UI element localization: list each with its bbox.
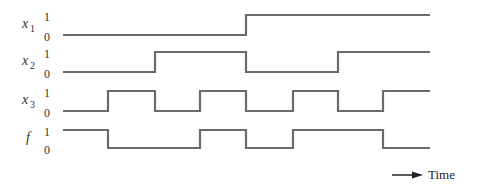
signal-row-x2: x210 (21, 47, 430, 81)
signal-name: x (21, 16, 29, 31)
level-low-label: 0 (44, 30, 50, 44)
signal-row-x1: x110 (21, 10, 430, 44)
signal-name: f (26, 130, 32, 145)
waveform (63, 130, 430, 148)
signal-name: x (21, 53, 29, 68)
signal-subscript: 2 (30, 60, 35, 71)
signal-subscript: 3 (30, 99, 35, 110)
time-axis: Time (392, 167, 455, 182)
waveform (63, 15, 430, 35)
signal-name: x (21, 92, 29, 107)
signal-row-f: f10 (26, 125, 430, 157)
level-high-label: 1 (44, 47, 50, 61)
level-low-label: 0 (44, 143, 50, 157)
level-high-label: 1 (44, 86, 50, 100)
level-low-label: 0 (44, 67, 50, 81)
time-arrow-head-icon (412, 172, 423, 179)
level-low-label: 0 (44, 106, 50, 120)
waveform (63, 52, 430, 72)
timing-diagram: x110x210x310f10 Time (0, 0, 478, 187)
level-high-label: 1 (44, 125, 50, 139)
signals-group: x110x210x310f10 (21, 10, 430, 157)
signal-row-x3: x310 (21, 86, 430, 120)
time-label: Time (428, 167, 455, 182)
signal-subscript: 1 (30, 23, 35, 34)
level-high-label: 1 (44, 10, 50, 24)
waveform (63, 91, 430, 111)
